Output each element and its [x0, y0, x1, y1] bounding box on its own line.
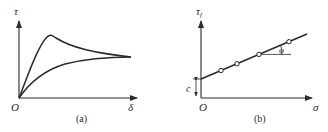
data-point — [219, 68, 223, 72]
peak-curve — [19, 35, 131, 98]
x-label-sigma: σ — [313, 101, 319, 113]
data-point — [235, 62, 239, 66]
intercept-label-c: c — [186, 83, 191, 94]
diagram-canvas: τ O δ (a) c φ τf O σ (b) — [0, 0, 328, 132]
panel-b: c φ τf O σ (b) — [186, 5, 319, 125]
monotonic-curve — [19, 57, 131, 98]
data-point — [287, 40, 291, 44]
panel-a: τ O δ (a) — [11, 5, 137, 125]
y-label-tau: τ — [14, 5, 19, 17]
angle-label-phi: φ — [279, 45, 284, 55]
caption-a: (a) — [76, 113, 87, 125]
origin-label-b: O — [199, 101, 207, 113]
data-point — [257, 52, 261, 56]
caption-b: (b) — [254, 113, 266, 125]
y-label-tau-f: τf — [196, 5, 203, 19]
origin-label-a: O — [11, 101, 19, 113]
x-label-delta: δ — [128, 101, 134, 113]
